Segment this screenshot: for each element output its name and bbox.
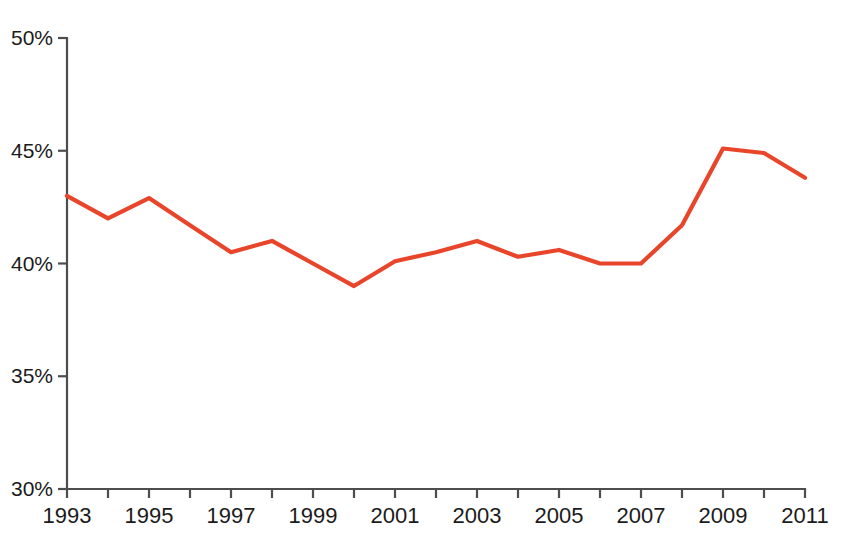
chart-plot-area: 30%35%40%45%50% 199319951997199920012003… [0,0,848,534]
y-axis-tick-label: 45% [11,139,53,162]
x-axis-tick-label: 2011 [781,503,828,528]
data-series-line [67,148,805,286]
x-axis-tick-label: 1995 [125,503,174,528]
y-axis-tick-label: 40% [11,252,53,275]
x-axis-tick-label: 1993 [43,503,92,528]
x-axis-tick-marks [67,489,805,498]
x-axis-tick-label: 2003 [453,503,502,528]
chart-axes [67,38,805,489]
y-axis-tick-marks [58,38,67,489]
x-axis-tick-label: 1997 [207,503,256,528]
x-axis-tick-label: 2001 [371,503,420,528]
x-axis-tick-label: 1999 [289,503,338,528]
x-axis-tick-label: 2005 [535,503,584,528]
x-axis-tick-label: 2009 [699,503,748,528]
x-axis-tick-labels: 1993199519971999200120032005200720092011 [43,503,829,528]
y-axis-tick-label: 30% [11,477,53,500]
x-axis-tick-label: 2007 [617,503,666,528]
y-axis-tick-label: 35% [11,364,53,387]
line-chart-figure: 30%35%40%45%50% 199319951997199920012003… [0,0,848,534]
y-axis-tick-label: 50% [11,26,53,49]
y-axis-tick-labels: 30%35%40%45%50% [11,26,53,500]
